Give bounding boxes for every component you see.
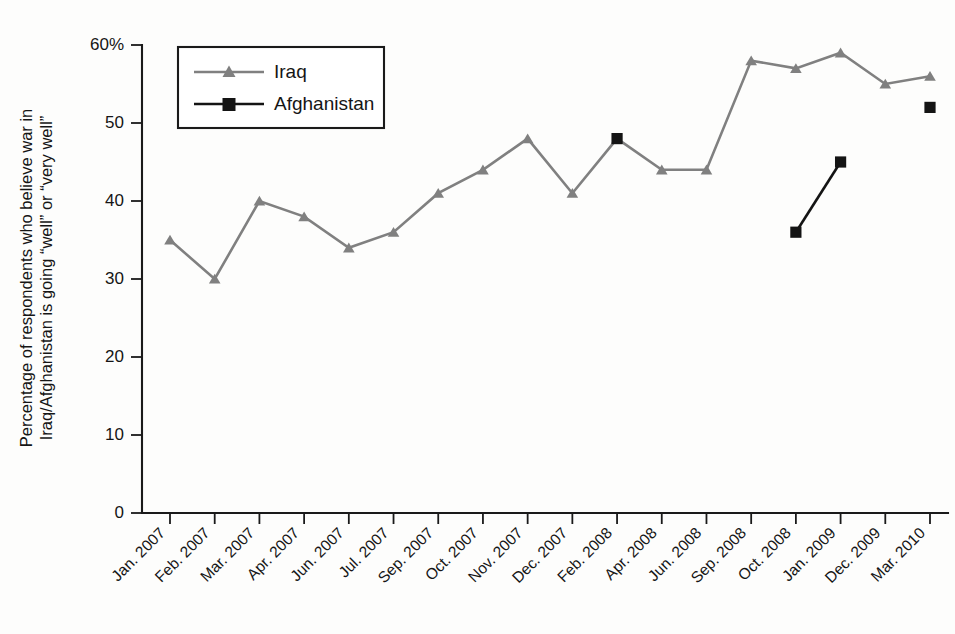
data-point-marker-square [835, 156, 846, 167]
x-axis-tick-labels: Jan. 2007Feb. 2007Mar. 2007Apr. 2007Jun.… [108, 524, 928, 586]
series-line [796, 162, 841, 232]
y-tick-label: 20 [105, 347, 124, 366]
y-axis-ticks: 0102030405060% [90, 35, 142, 522]
data-point-marker-square [611, 133, 622, 144]
data-point-marker-triangle [254, 196, 266, 206]
y-tick-label: 60% [90, 35, 124, 54]
y-axis-title-line-1: Percentage of respondents who believe wa… [17, 109, 35, 447]
legend-label-iraq: Iraq [274, 61, 307, 82]
y-tick-label: 10 [105, 425, 124, 444]
data-point-marker-triangle [835, 48, 847, 58]
y-tick-label: 50 [105, 113, 124, 132]
x-axis-ticks [170, 513, 930, 524]
data-point-marker-square [790, 227, 801, 238]
legend-marker-square-afghanistan [223, 98, 236, 111]
legend: Iraq Afghanistan [178, 47, 384, 128]
data-point-marker-triangle [522, 133, 534, 143]
legend-border [178, 47, 384, 128]
y-tick-label: 30 [105, 269, 124, 288]
line-chart: Percentage of respondents who believe wa… [0, 0, 955, 634]
y-tick-label: 40 [105, 191, 124, 210]
data-point-marker-triangle [432, 188, 444, 198]
chart-container: Percentage of respondents who believe wa… [0, 0, 955, 634]
y-tick-label: 0 [115, 503, 124, 522]
legend-label-afghanistan: Afghanistan [274, 93, 374, 114]
y-axis-title-line-2: Iraq/Afghanistan is going “well” or “ver… [37, 116, 55, 441]
data-point-marker-square [924, 102, 935, 113]
data-point-marker-triangle [164, 235, 176, 245]
